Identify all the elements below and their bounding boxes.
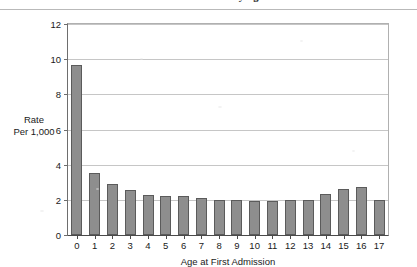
x-tick-label: 7 [199, 240, 204, 251]
bar [160, 196, 171, 235]
x-tick-mark [148, 235, 149, 239]
x-tick-label: 10 [249, 240, 260, 251]
bar [107, 184, 118, 235]
plot-area: 024681012 01234567891011121314151617 [67, 23, 389, 236]
x-tick-label: 8 [216, 240, 221, 251]
x-tick-mark [344, 235, 345, 239]
bar [267, 201, 278, 235]
x-tick-mark [308, 235, 309, 239]
x-tick-label: 5 [163, 240, 168, 251]
x-tick-label: 13 [303, 240, 314, 251]
y-tick-mark [64, 94, 68, 95]
bar [249, 201, 260, 235]
x-tick-mark [95, 235, 96, 239]
x-tick-label: 6 [181, 240, 186, 251]
x-tick-mark [361, 235, 362, 239]
y-tick-mark [64, 24, 68, 25]
x-tick-mark [255, 235, 256, 239]
x-tick-mark [237, 235, 238, 239]
scan-artifact [300, 40, 303, 42]
bar [71, 65, 82, 235]
x-tick-label: 4 [145, 240, 150, 251]
y-tick-mark [64, 200, 68, 201]
x-tick-mark [290, 235, 291, 239]
x-tick-mark [77, 235, 78, 239]
scan-artifact [352, 150, 355, 152]
x-tick-mark [130, 235, 131, 239]
x-tick-label: 16 [356, 240, 367, 251]
y-tick-label: 6 [56, 124, 61, 135]
scan-artifact [140, 58, 143, 60]
scan-artifact [40, 210, 44, 212]
gridline [68, 94, 388, 95]
y-tick-label: 10 [50, 54, 61, 65]
gridline [68, 130, 388, 131]
y-tick-mark [64, 165, 68, 166]
x-tick-mark [112, 235, 113, 239]
x-tick-label: 15 [338, 240, 349, 251]
bar [196, 198, 207, 235]
bar [303, 200, 314, 235]
x-tick-mark [379, 235, 380, 239]
chart-figure: Rate Per 1,000 024681012 012345678910111… [0, 9, 417, 264]
bar [143, 195, 154, 235]
y-tick-label: 12 [50, 19, 61, 30]
x-tick-label: 11 [268, 240, 278, 251]
bar [374, 200, 385, 235]
bar [285, 200, 296, 235]
x-tick-mark [272, 235, 273, 239]
chart-title: Rate of First Admission into Foster Care… [0, 0, 417, 4]
gridline [68, 165, 388, 166]
x-tick-label: 2 [110, 240, 115, 251]
y-tick-mark [64, 59, 68, 60]
x-tick-label: 0 [74, 240, 79, 251]
bar [231, 200, 242, 235]
bar [125, 190, 136, 235]
bar [178, 196, 189, 235]
y-tick-label: 8 [56, 89, 61, 100]
scan-artifact [96, 188, 99, 190]
x-tick-mark [326, 235, 327, 239]
x-tick-mark [184, 235, 185, 239]
y-tick-mark [64, 235, 68, 236]
x-tick-mark [166, 235, 167, 239]
gridline [68, 59, 388, 60]
x-tick-label: 9 [234, 240, 239, 251]
y-tick-label: 0 [56, 230, 61, 241]
bar [89, 173, 100, 235]
x-axis-title: Age at First Admission [67, 256, 389, 267]
x-tick-label: 17 [374, 240, 385, 251]
y-tick-mark [64, 130, 68, 131]
bar [338, 189, 349, 235]
bar [356, 187, 367, 235]
x-tick-mark [201, 235, 202, 239]
x-tick-mark [219, 235, 220, 239]
x-tick-label: 12 [285, 240, 296, 251]
gridline [68, 24, 388, 25]
bar [214, 200, 225, 235]
x-tick-label: 1 [92, 240, 97, 251]
y-tick-label: 4 [56, 159, 61, 170]
x-tick-label: 14 [320, 240, 331, 251]
y-tick-label: 2 [56, 194, 61, 205]
scan-artifact [218, 106, 222, 108]
bar [320, 194, 331, 235]
x-tick-label: 3 [128, 240, 133, 251]
